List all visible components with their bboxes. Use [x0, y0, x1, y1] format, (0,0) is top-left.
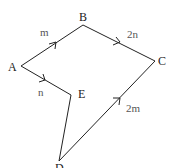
- vertex-label-a: A: [8, 60, 17, 74]
- edge-b-c: [83, 25, 155, 61]
- vertex-label-d: D: [55, 161, 64, 168]
- edge-label-2m: 2m: [126, 102, 141, 114]
- vector-diagram: A B C D E m 2n n 2m: [0, 0, 172, 168]
- vertex-label-b: B: [79, 10, 87, 24]
- edge-e-d: [59, 95, 71, 161]
- edge-label-n: n: [38, 86, 44, 98]
- edge-label-m: m: [40, 26, 49, 38]
- vertex-label-c: C: [158, 54, 166, 68]
- edge-a-b: [21, 25, 83, 66]
- edge-label-2n: 2n: [127, 28, 139, 40]
- edge-d-c: [59, 61, 155, 161]
- vertex-label-e: E: [78, 87, 85, 101]
- edge-a-e: [21, 66, 71, 95]
